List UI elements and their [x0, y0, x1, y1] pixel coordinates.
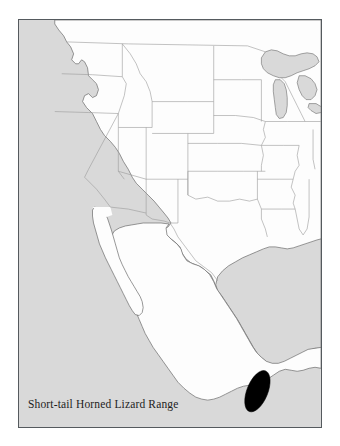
map-caption: Short-tail Horned Lizard Range [28, 399, 178, 411]
map-frame [18, 19, 322, 428]
range-map-figure: Short-tail Horned Lizard Range [0, 0, 340, 446]
map-canvas [19, 20, 321, 427]
